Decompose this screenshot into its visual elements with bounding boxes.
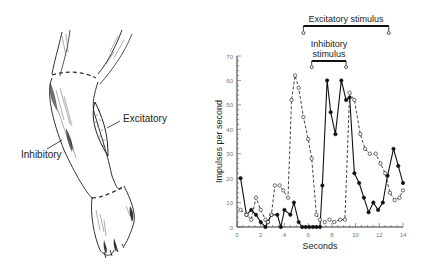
y-tick-label: 10 (226, 200, 233, 206)
filled-data-point (311, 225, 314, 228)
filled-data-point (376, 208, 379, 211)
y-axis-label: Impulses per second (214, 100, 224, 183)
open-data-point (379, 162, 382, 165)
open-data-point (278, 184, 281, 187)
x-tick-label: 14 (400, 232, 407, 238)
filled-data-point (264, 225, 267, 228)
filled-data-point (297, 220, 300, 223)
filled-data-point (334, 132, 337, 135)
open-data-point (318, 218, 321, 221)
filled-data-point (279, 225, 282, 228)
open-data-point (388, 191, 391, 194)
excitatory-stimulus-label: Excitatory stimulus (309, 14, 385, 24)
x-tick-label: 6 (306, 232, 310, 238)
filled-data-point (259, 220, 262, 223)
open-data-point (273, 184, 276, 187)
solid-series-line (241, 80, 403, 227)
filled-data-point (308, 225, 311, 228)
filled-data-point (392, 147, 395, 150)
open-data-point (270, 213, 273, 216)
filled-data-point (304, 225, 307, 228)
open-data-point (266, 220, 269, 223)
open-data-point (384, 172, 387, 175)
filled-data-point (340, 79, 343, 82)
open-data-point (368, 152, 371, 155)
x-tick-label: 0 (235, 232, 239, 238)
filled-data-point (250, 208, 253, 211)
filled-data-point (283, 208, 286, 211)
y-tick-label: 60 (226, 78, 233, 84)
filled-data-point (381, 201, 384, 204)
filled-data-point (362, 196, 365, 199)
x-tick-label: 8 (330, 232, 334, 238)
filled-data-point (276, 213, 279, 216)
y-tick-label: 50 (226, 102, 233, 108)
x-tick-label: 2 (259, 232, 263, 238)
open-data-point (254, 196, 257, 199)
open-data-point (393, 198, 396, 201)
open-data-point (297, 86, 300, 89)
open-data-point (353, 98, 356, 101)
open-data-point (310, 157, 313, 160)
open-data-point (302, 115, 305, 118)
open-data-point (259, 208, 262, 211)
open-data-point (338, 218, 341, 221)
leg-drawing-icon (0, 0, 200, 264)
open-data-point (306, 137, 309, 140)
filled-data-point (357, 181, 360, 184)
y-tick-label: 0 (230, 225, 234, 231)
filled-data-point (372, 201, 375, 204)
impulses-chart: 01020304050607002468101214SecondsImpulse… (200, 0, 423, 264)
y-tick-label: 70 (226, 54, 233, 60)
stimulus-marker (302, 32, 305, 35)
filled-data-point (318, 225, 321, 228)
open-data-point (315, 213, 318, 216)
open-data-point (333, 220, 336, 223)
filled-data-point (315, 225, 318, 228)
filled-data-point (325, 79, 328, 82)
open-data-point (286, 196, 289, 199)
chart-plot: 01020304050607002468101214SecondsImpulse… (200, 0, 423, 264)
filled-data-point (301, 225, 304, 228)
filled-data-point (292, 201, 295, 204)
stimulus-marker (345, 66, 348, 69)
y-tick-label: 30 (226, 151, 233, 157)
open-data-point (374, 152, 377, 155)
filled-data-point (353, 172, 356, 175)
filled-data-point (289, 213, 292, 216)
x-tick-label: 12 (376, 232, 383, 238)
filled-data-point (397, 164, 400, 167)
open-data-point (343, 218, 346, 221)
inhibitory-stimulus-label: Inhibitory (311, 39, 348, 49)
open-data-point (239, 208, 242, 211)
inhibitory-label: Inhibitory (21, 149, 62, 160)
filled-data-point (344, 98, 347, 101)
filled-data-point (329, 110, 332, 113)
open-data-point (245, 213, 248, 216)
filled-data-point (401, 181, 404, 184)
open-data-point (398, 196, 401, 199)
open-data-point (328, 218, 331, 221)
open-data-point (290, 98, 293, 101)
filled-data-point (321, 184, 324, 187)
x-tick-label: 4 (283, 232, 287, 238)
inhibitory-stimulus-label: stimulus (312, 49, 346, 59)
y-tick-label: 40 (226, 127, 233, 133)
open-data-point (348, 91, 351, 94)
open-data-point (323, 220, 326, 223)
stimulus-marker (387, 32, 390, 35)
open-data-point (250, 218, 253, 221)
y-tick-label: 20 (226, 176, 233, 182)
x-tick-label: 10 (352, 232, 359, 238)
filled-data-point (239, 176, 242, 179)
open-data-point (293, 74, 296, 77)
open-data-point (363, 147, 366, 150)
filled-data-point (254, 213, 257, 216)
x-axis-label: Seconds (302, 241, 338, 251)
filled-data-point (367, 211, 370, 214)
stimulus-marker (310, 66, 313, 69)
open-data-point (282, 189, 285, 192)
leg-illustration: Excitatory Inhibitory (0, 0, 200, 264)
open-data-point (401, 189, 404, 192)
open-data-point (359, 132, 362, 135)
